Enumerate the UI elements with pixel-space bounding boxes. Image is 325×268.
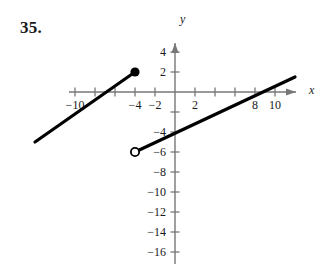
axes-group: [69, 43, 296, 264]
closed-endpoint-dot: [130, 67, 139, 76]
x-tick-label: 8: [252, 98, 258, 112]
y-tick-label: −6: [153, 145, 166, 159]
open-endpoint-circle: [131, 148, 139, 156]
y-axis-label: y: [179, 12, 186, 26]
x-tick-label: −4: [129, 98, 142, 112]
y-tick-label: −12: [147, 205, 166, 219]
x-axis-label: x: [308, 83, 315, 97]
x-tick-label: −2: [149, 98, 162, 112]
y-tick-label: −16: [147, 245, 166, 259]
x-tick-label: 2: [192, 98, 198, 112]
x-axis-arrow-icon: [286, 88, 296, 95]
line-segments-group: [35, 72, 295, 152]
y-tick-label: −10: [147, 185, 166, 199]
y-tick-label: −8: [153, 165, 166, 179]
x-tick-label: 10: [269, 98, 281, 112]
y-tick-label: −14: [147, 225, 166, 239]
y-tick-label: 2: [160, 65, 166, 79]
line-segment-left-branch: [35, 72, 135, 142]
y-tick-label: 4: [160, 45, 166, 59]
graph-figure: −10−4−2281042−4−6−8−10−12−14−16 x y: [0, 0, 325, 268]
